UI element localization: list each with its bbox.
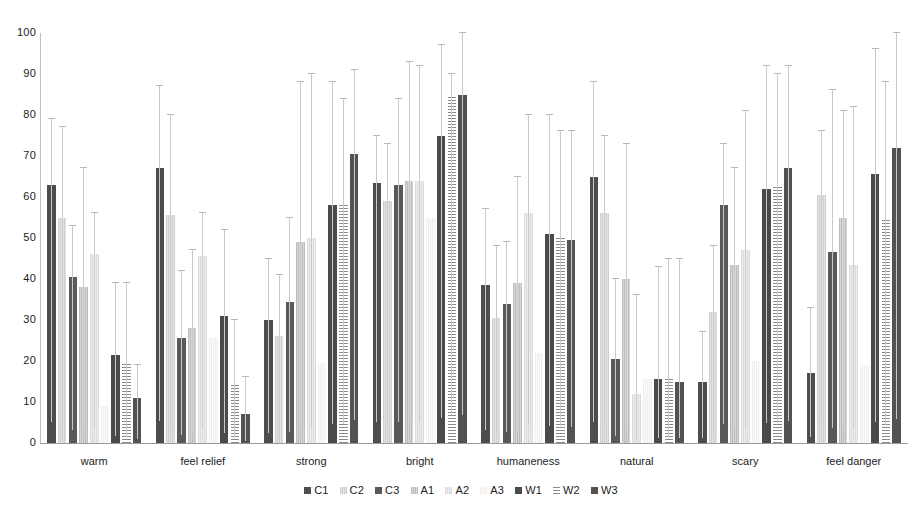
error-bar-cap	[80, 167, 87, 168]
bar-group	[474, 33, 583, 443]
error-bar-cap	[265, 258, 272, 259]
bar-slot	[631, 33, 642, 443]
error-bar-cap	[308, 73, 315, 74]
error-bar-cap	[221, 229, 228, 230]
bar-slot	[317, 33, 328, 443]
y-axis-tick-label: 60	[2, 191, 36, 202]
legend-item-a3[interactable]: A3	[480, 484, 504, 496]
legend-label: W1	[525, 484, 542, 496]
error-bar-cap	[829, 89, 836, 90]
bar-a3-warm[interactable]	[101, 406, 110, 443]
bar-slot	[589, 33, 600, 443]
bar-a3-humaneness[interactable]	[535, 353, 544, 443]
legend-item-c1[interactable]: C1	[304, 484, 328, 496]
error-bar	[788, 66, 789, 421]
error-bar	[636, 295, 637, 439]
error-bar-cap	[546, 114, 553, 115]
bar-slot	[544, 33, 555, 443]
error-bar	[159, 86, 160, 421]
error-bar	[615, 279, 616, 436]
bar-group-bars	[800, 33, 909, 443]
bar-group	[149, 33, 258, 443]
bar-slot	[89, 33, 100, 443]
legend-swatch-icon	[553, 487, 560, 494]
bar-slot	[165, 33, 176, 443]
error-bar-cap	[676, 258, 683, 259]
legend-item-a2[interactable]: A2	[445, 484, 469, 496]
bar-slot	[642, 33, 653, 443]
bar-slot	[393, 33, 404, 443]
error-bar	[126, 283, 127, 437]
error-bar-cap	[448, 73, 455, 74]
bar-slot	[306, 33, 317, 443]
error-bar-cap	[568, 130, 575, 131]
bar-a3-natural[interactable]	[643, 379, 652, 443]
bar-a3-bright[interactable]	[426, 218, 435, 444]
error-bar-cap	[710, 245, 717, 246]
error-bar	[843, 111, 844, 425]
bar-slot	[621, 33, 632, 443]
legend-item-c3[interactable]: C3	[375, 484, 399, 496]
bar-a3-feel-danger[interactable]	[860, 365, 869, 443]
error-bar	[94, 213, 95, 428]
error-bar	[409, 62, 410, 422]
bar-group	[366, 33, 475, 443]
error-bar	[419, 66, 420, 422]
error-bar	[668, 259, 669, 438]
y-axis-tick-label: 20	[2, 355, 36, 366]
error-bar	[723, 144, 724, 424]
legend-label: C3	[385, 484, 399, 496]
legend-item-a1[interactable]: A1	[411, 484, 435, 496]
bar-slot	[838, 33, 849, 443]
bar-slot	[566, 33, 577, 443]
chart-legend: C1C2C3A1A2A3W1W2W3	[0, 484, 922, 496]
bar-slot	[414, 33, 425, 443]
bar-slot	[338, 33, 349, 443]
bar-slot	[295, 33, 306, 443]
legend-item-w3[interactable]: W3	[591, 484, 618, 496]
error-bar	[549, 115, 550, 426]
y-axis-tick-label: 100	[2, 27, 36, 38]
error-bar	[354, 70, 355, 420]
legend-item-w2[interactable]: W2	[553, 484, 580, 496]
bar-slot	[751, 33, 762, 443]
x-axis-category-label: scary	[691, 455, 800, 467]
bar-a3-scary[interactable]	[752, 361, 761, 443]
error-bar-cap	[178, 270, 185, 271]
bar-slot	[67, 33, 78, 443]
error-bar	[137, 365, 138, 439]
bar-group	[257, 33, 366, 443]
bar-slot	[501, 33, 512, 443]
plot-area	[40, 33, 908, 443]
legend-item-w1[interactable]: W1	[515, 484, 542, 496]
error-bar-cap	[482, 208, 489, 209]
legend-item-c2[interactable]: C2	[340, 484, 364, 496]
error-bar-cap	[882, 81, 889, 82]
bar-slot	[740, 33, 751, 443]
bar-slot	[653, 33, 664, 443]
error-bar-cap	[665, 258, 672, 259]
legend-label: C2	[350, 484, 364, 496]
error-bar	[289, 218, 290, 432]
error-bar-cap	[242, 376, 249, 377]
bar-slot	[100, 33, 111, 443]
error-bar-cap	[840, 110, 847, 111]
bar-slot	[176, 33, 187, 443]
bar-slot	[827, 33, 838, 443]
error-bar	[234, 320, 235, 438]
error-bar-cap	[785, 65, 792, 66]
error-bar	[332, 82, 333, 424]
legend-swatch-icon	[411, 487, 418, 494]
bar-a3-feel-relief[interactable]	[209, 338, 218, 443]
error-bar	[604, 136, 605, 425]
error-bar	[821, 131, 822, 423]
error-bar	[62, 127, 63, 425]
bar-slot	[718, 33, 729, 443]
error-bar	[224, 230, 225, 433]
bar-group-bars	[691, 33, 800, 443]
error-bar-cap	[340, 98, 347, 99]
error-bar	[506, 242, 507, 432]
bar-a3-strong[interactable]	[318, 363, 327, 443]
y-axis-tick-label: 70	[2, 150, 36, 161]
error-bar	[593, 82, 594, 421]
